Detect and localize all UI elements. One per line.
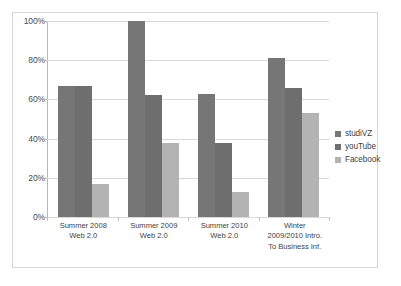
legend-item-studivz[interactable]: studiVZ <box>335 127 395 140</box>
x-axis-label-3: Summer 2010Web 2.0 <box>189 221 260 252</box>
plot-area <box>47 21 329 217</box>
y-axis-tick-labels: 100%80%60%40%20%0% <box>15 13 45 267</box>
tick-mark-100 <box>43 21 47 22</box>
bar-studivz-4[interactable] <box>268 58 285 217</box>
x-axis-label-line: 2009/2010 Intro. <box>261 231 330 241</box>
y-axis-tick-label-20: 20% <box>15 174 45 183</box>
bar-youtube-4[interactable] <box>285 88 302 217</box>
bar-facebook-2[interactable] <box>162 143 179 217</box>
legend-label: Facebook <box>345 155 380 164</box>
chart-legend: studiVZyouTubeFacebook <box>335 127 395 166</box>
legend-swatch-icon <box>335 131 341 137</box>
x-axis-label-1: Summer 2008Web 2.0 <box>48 221 119 252</box>
bar-youtube-1[interactable] <box>75 86 92 217</box>
y-axis-tick-label-0: 0% <box>15 213 45 222</box>
legend-swatch-icon <box>335 157 341 163</box>
y-axis-tick-label-80: 80% <box>15 56 45 65</box>
x-axis-label-line: To Business Inf. <box>261 242 330 252</box>
x-axis-label-line: Web 2.0 <box>120 231 189 241</box>
tick-mark-80 <box>43 60 47 61</box>
legend-label: studiVZ <box>345 129 372 138</box>
x-axis-label-4: Winter2009/2010 Intro.To Business Inf. <box>260 221 331 252</box>
bar-group-4 <box>259 21 329 217</box>
x-axis-label-2: Summer 2009Web 2.0 <box>119 221 190 252</box>
y-axis-tick-label-40: 40% <box>15 135 45 144</box>
x-axis-label-line: Web 2.0 <box>190 231 259 241</box>
bar-facebook-1[interactable] <box>92 184 109 217</box>
bar-facebook-4[interactable] <box>302 113 319 217</box>
bar-studivz-2[interactable] <box>128 21 145 217</box>
y-axis-tick-label-60: 60% <box>15 95 45 104</box>
x-axis-label-line: Summer 2008 <box>49 221 118 231</box>
x-axis-label-line: Web 2.0 <box>49 231 118 241</box>
tick-mark-20 <box>43 178 47 179</box>
bar-group-1 <box>48 21 118 217</box>
bar-youtube-2[interactable] <box>145 95 162 217</box>
bar-group-3 <box>189 21 259 217</box>
tick-mark-40 <box>43 139 47 140</box>
bar-facebook-3[interactable] <box>232 192 249 217</box>
x-axis-label-line: Winter <box>261 221 330 231</box>
x-axis-label-line: Summer 2010 <box>190 221 259 231</box>
legend-item-facebook[interactable]: Facebook <box>335 153 395 166</box>
chart-container: 100%80%60%40%20%0% Summer 2008Web 2.0Sum… <box>12 12 378 268</box>
bar-studivz-1[interactable] <box>58 86 75 217</box>
bar-groups <box>48 21 329 217</box>
y-axis-tick-label-100: 100% <box>15 17 45 26</box>
legend-item-youtube[interactable]: youTube <box>335 140 395 153</box>
bar-studivz-3[interactable] <box>198 94 215 217</box>
legend-label: youTube <box>345 142 376 151</box>
tick-mark-60 <box>43 99 47 100</box>
legend-swatch-icon <box>335 144 341 150</box>
x-axis-category-labels: Summer 2008Web 2.0Summer 2009Web 2.0Summ… <box>48 221 330 252</box>
bar-youtube-3[interactable] <box>215 143 232 217</box>
bar-group-2 <box>118 21 188 217</box>
x-axis-label-line: Summer 2009 <box>120 221 189 231</box>
plot-wrapper: 100%80%60%40%20%0% Summer 2008Web 2.0Sum… <box>13 13 377 267</box>
